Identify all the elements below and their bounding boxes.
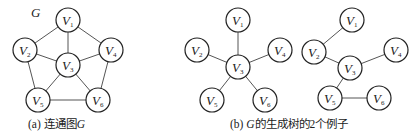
caption-b-suffix: 的生成树的2个例子 <box>255 118 349 130</box>
graph-a-label: G <box>31 5 40 21</box>
node-V5: V5 <box>318 86 342 110</box>
graph-b2: V1V2V3V4V5V6 <box>302 8 408 110</box>
node-V3: V3 <box>338 56 362 80</box>
node-V1: V1 <box>340 8 364 32</box>
node-V2: V2 <box>185 38 209 62</box>
graph-b1: V1V2V3V4V5V6 <box>185 8 292 112</box>
caption-b: (b) G的生成树的2个例子 <box>230 115 348 131</box>
node-V4: V4 <box>99 38 123 62</box>
node-V3: V3 <box>56 53 80 77</box>
caption-a: (a) 连通图G <box>28 115 85 131</box>
node-V2: V2 <box>302 40 326 64</box>
node-V1: V1 <box>56 8 80 32</box>
node-V4: V4 <box>384 38 408 62</box>
graph-a: V1V2V3V4V5V6 <box>13 8 123 112</box>
node-V6: V6 <box>86 88 110 112</box>
node-V4: V4 <box>268 38 292 62</box>
caption-a-prefix: (a) 连通图 <box>28 118 77 130</box>
caption-a-var: G <box>77 118 85 130</box>
node-V5: V5 <box>200 88 224 112</box>
node-V5: V5 <box>26 88 50 112</box>
node-V2: V2 <box>13 38 37 62</box>
caption-b-prefix: (b) <box>230 118 246 130</box>
node-V6: V6 <box>253 88 277 112</box>
node-V3: V3 <box>226 55 250 79</box>
node-V1: V1 <box>226 8 250 32</box>
caption-b-var: G <box>246 118 254 130</box>
node-V6: V6 <box>367 86 391 110</box>
